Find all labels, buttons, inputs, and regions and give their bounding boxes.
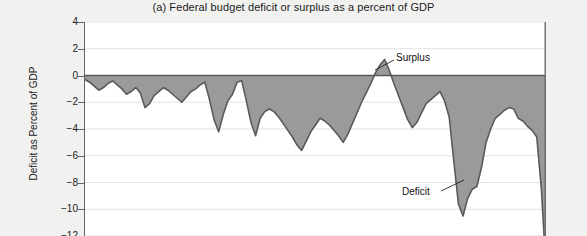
y-tick-mark	[78, 129, 84, 130]
area-chart-svg	[85, 22, 546, 236]
y-tick-mark	[78, 22, 84, 23]
y-tick-mark	[78, 156, 84, 157]
y-tick-mark	[78, 76, 84, 77]
y-axis-spine	[84, 22, 85, 236]
chart-figure: (a) Federal budget deficit or surplus as…	[0, 0, 587, 236]
y-tick-mark	[78, 183, 84, 184]
y-tick-label: −2	[52, 97, 78, 107]
y-tick-label: −12	[52, 231, 78, 236]
y-tick-mark	[78, 209, 84, 210]
surplus-annotation-label: Surplus	[396, 52, 430, 63]
y-tick-label: −4	[52, 124, 78, 134]
plot-area	[85, 22, 546, 236]
deficit-annotation-label: Deficit	[402, 186, 430, 197]
y-tick-label: −8	[52, 178, 78, 188]
y-tick-label: −6	[52, 151, 78, 161]
chart-title: (a) Federal budget deficit or surplus as…	[0, 1, 587, 13]
y-tick-label: 4	[52, 17, 78, 27]
y-tick-label: 2	[52, 44, 78, 54]
y-tick-mark	[78, 102, 84, 103]
y-axis-title: Deficit as Percent of GDP	[28, 29, 39, 219]
y-tick-label: 0	[52, 71, 78, 81]
y-tick-mark	[78, 49, 84, 50]
y-axis-tick-labels: 420−2−4−6−8−10−12	[52, 0, 78, 236]
y-tick-label: −10	[52, 204, 78, 214]
